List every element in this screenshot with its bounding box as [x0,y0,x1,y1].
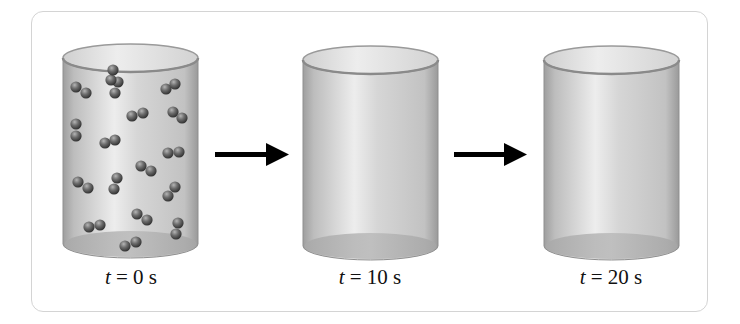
time-value: = 10 s [345,265,402,289]
cylinder-stage-2 [303,46,438,260]
time-value: = 20 s [586,265,643,289]
time-value: = 0 s [111,265,157,289]
time-label-stage-2: t = 10 s [300,265,440,289]
cylinder-stage-3 [544,46,679,260]
time-label-stage-1: t = 0 s [61,265,201,289]
time-label-stage-3: t = 20 s [541,265,681,289]
right-arrow-icon [215,143,289,166]
right-arrow-icon [454,143,527,166]
